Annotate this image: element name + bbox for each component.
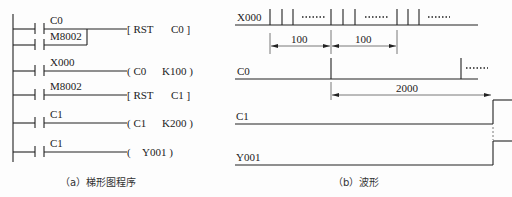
diagram-canvas: C0 M8002 [ RST C0 ] X000 ( C0 K100 ) xyxy=(0,0,512,197)
operand: K200 ) xyxy=(162,117,193,130)
contact-label: C0 xyxy=(50,14,63,26)
instruction: ( C1 xyxy=(127,117,146,130)
figure: C0 M8002 [ RST C0 ] X000 ( C0 K100 ) xyxy=(0,0,512,197)
waveform-caption: （b）波形 xyxy=(333,176,379,188)
operand: Y001 ) xyxy=(142,146,173,159)
operand: K100 ) xyxy=(162,65,193,78)
ladder-caption: （a）梯形图程序 xyxy=(60,176,136,188)
dimension-100-pulses: 100 100 xyxy=(270,30,397,54)
rung-2: X000 ( C0 K100 ) xyxy=(13,56,193,78)
rung-4: C1 ( C1 K200 ) xyxy=(13,108,193,130)
contact-label: C1 xyxy=(50,108,63,120)
contact-label: M8002 xyxy=(50,30,82,42)
dimension-label: 2000 xyxy=(396,82,419,94)
signal-y001: Y001 xyxy=(235,141,512,165)
waveform-diagram: X000 xyxy=(235,9,512,188)
dimension-label: 100 xyxy=(291,33,308,45)
contact-label: C1 xyxy=(50,137,63,149)
operand: C1 ] xyxy=(171,89,190,101)
signal-c1: C1 xyxy=(235,100,512,140)
rung-3: M8002 [ RST C1 ] xyxy=(13,80,190,101)
signal-label: C1 xyxy=(236,110,249,122)
signal-x000: X000 xyxy=(235,9,478,25)
signal-label: X000 xyxy=(237,11,262,23)
signal-label: C0 xyxy=(237,65,250,77)
instruction: [ RST xyxy=(127,89,154,101)
dimension-label: 100 xyxy=(355,33,372,45)
instruction: ( C0 xyxy=(127,65,147,78)
signal-c0: C0 xyxy=(235,58,488,79)
dimension-2000: 2000 xyxy=(331,82,491,100)
contact-label: X000 xyxy=(50,56,75,68)
contact-label: M8002 xyxy=(50,80,82,92)
instruction: [ RST xyxy=(127,23,154,35)
signal-label: Y001 xyxy=(236,151,260,163)
ladder-diagram: C0 M8002 [ RST C0 ] X000 ( C0 K100 ) xyxy=(13,14,193,188)
instruction: ( xyxy=(127,146,131,159)
operand: C0 ] xyxy=(171,23,190,35)
rung-5: C1 ( Y001 ) xyxy=(13,137,173,159)
rung-1: C0 M8002 [ RST C0 ] xyxy=(13,14,190,50)
